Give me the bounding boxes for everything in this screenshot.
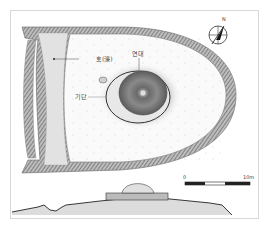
scale-end-label: 10m (243, 175, 254, 180)
base-label: 기단 (75, 94, 87, 100)
moat-label: 호(濠) (96, 56, 113, 62)
site-plan-drawing (0, 0, 265, 237)
scale-bar (185, 182, 250, 185)
north-arrow-icon (209, 26, 227, 44)
left-embankment (24, 40, 37, 158)
scale-start-label: 0 (183, 175, 186, 180)
beacon-label: 연대 (132, 51, 144, 57)
north-label: N (222, 17, 226, 22)
section-profile (12, 184, 232, 215)
